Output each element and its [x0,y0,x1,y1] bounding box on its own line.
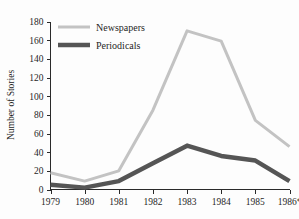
x-tick-label: 1983 [178,197,197,207]
y-tick-label: 160 [29,36,44,46]
x-tick-label: 1982 [143,197,162,207]
x-tick-label: 1984 [212,197,231,207]
y-tick-label: 140 [29,54,44,64]
x-tick-label: 1980 [75,197,94,207]
line-chart: 020406080100120140160180 197919801981198… [0,0,299,219]
y-tick-label: 80 [34,110,44,120]
y-tick-label: 40 [34,148,44,158]
chart-figure: 020406080100120140160180 197919801981198… [0,0,299,219]
y-tick-label: 100 [29,92,44,102]
y-axis-title: Number of Stories [6,70,16,140]
legend-label-newspapers: Newspapers [96,22,145,33]
x-tick-label: 1986* [278,197,299,207]
x-tick-label: 1979 [41,197,60,207]
y-tick-label: 120 [29,73,44,83]
x-tick-label: 1981 [109,197,128,207]
y-tick-label: 180 [29,17,44,27]
y-tick-label: 0 [39,185,44,195]
chart-background [0,0,299,219]
legend-label-periodicals: Periodicals [96,40,141,51]
x-tick-label: 1985 [246,197,265,207]
y-tick-label: 60 [34,129,44,139]
y-tick-label: 20 [34,166,44,176]
